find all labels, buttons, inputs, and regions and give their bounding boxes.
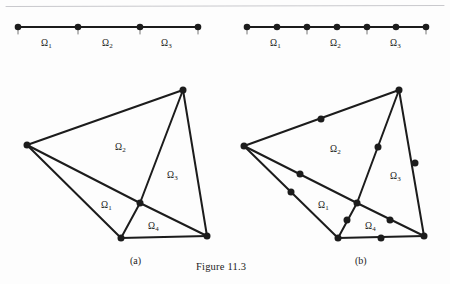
omega-subscript: 1: [325, 204, 329, 212]
1d-quadratic-node-3: [334, 24, 341, 31]
2d-quadratic-omega-label-3: Ω3: [390, 172, 401, 183]
1d-linear-node-1: [75, 24, 82, 31]
figure-caption: Figure 11.3: [196, 262, 246, 273]
horizontal-rule: [6, 6, 444, 7]
omega-subscript: 3: [168, 42, 172, 50]
omega-symbol: Ω: [330, 144, 337, 154]
omega-subscript: 3: [397, 42, 401, 50]
1d-quadratic-node-0: [244, 24, 251, 31]
2d-linear-edge-top-right: [183, 90, 207, 236]
omega-symbol: Ω: [41, 38, 48, 48]
2d-quadratic-omega-label-4: Ω4: [365, 222, 376, 233]
1d-mesh-quadratic-graphics: [244, 24, 430, 34]
2d-quadratic-omega-label-2: Ω2: [330, 145, 341, 156]
2d-quadratic-vertex-left: [241, 143, 248, 150]
2d-linear-vertex-center: [137, 200, 144, 207]
2d-linear-edge-left-bottom: [27, 145, 121, 238]
omega-symbol: Ω: [161, 38, 168, 48]
2d-linear-vertex-top: [180, 87, 187, 94]
2d-mesh-quadratic-graphics: [241, 87, 428, 242]
omega-subscript: 4: [155, 225, 159, 233]
omega-subscript: 3: [397, 175, 401, 183]
1d-linear-node-0: [15, 24, 22, 31]
1d-quadratic-node-5: [393, 24, 400, 31]
2d-linear-edge-left-center: [27, 145, 140, 203]
1d-quadratic-node-2: [304, 24, 311, 31]
omega-symbol: Ω: [115, 142, 122, 152]
1d-quadratic-omega-label-1: Ω1: [270, 39, 281, 50]
2d-linear-vertex-right: [204, 233, 211, 240]
omega-symbol: Ω: [318, 200, 325, 210]
omega-subscript: 2: [109, 42, 113, 50]
omega-symbol: Ω: [365, 221, 372, 231]
1d-linear-omega-label-1: Ω1: [41, 39, 52, 50]
2d-quadratic-midside-node-4: [412, 160, 419, 167]
1d-quadratic-omega-label-3: Ω3: [390, 39, 401, 50]
2d-quadratic-vertex-center: [354, 200, 361, 207]
omega-symbol: Ω: [102, 38, 109, 48]
omega-symbol: Ω: [167, 170, 174, 180]
2d-linear-edge-top-center: [140, 90, 183, 203]
omega-subscript: 3: [174, 174, 178, 182]
2d-linear-omega-label-3: Ω3: [167, 171, 178, 182]
2d-mesh-linear-graphics: [24, 87, 211, 242]
omega-subscript: 1: [48, 42, 52, 50]
2d-quadratic-vertex-right: [421, 233, 428, 240]
omega-symbol: Ω: [330, 38, 337, 48]
omega-subscript: 1: [108, 204, 112, 212]
1d-quadratic-node-4: [364, 24, 371, 31]
2d-quadratic-midside-node-3: [375, 144, 382, 151]
figure-11-3: Figure 11.3 Ω1Ω2Ω3Ω1Ω2Ω3Ω1Ω2Ω3Ω4Ω1Ω2Ω3Ω4…: [0, 0, 450, 284]
2d-linear-vertex-left: [24, 142, 31, 149]
omega-subscript: 1: [277, 42, 281, 50]
omega-symbol: Ω: [390, 171, 397, 181]
2d-quadratic-midside-node-0: [318, 116, 325, 123]
omega-symbol: Ω: [148, 221, 155, 231]
1d-quadratic-node-1: [274, 24, 281, 31]
2d-linear-omega-label-1: Ω1: [101, 201, 112, 212]
2d-quadratic-midside-node-5: [344, 217, 351, 224]
omega-subscript: 2: [122, 146, 126, 154]
2d-quadratic-midside-node-1: [297, 171, 304, 178]
2d-quadratic-omega-label-1: Ω1: [318, 201, 329, 212]
2d-quadratic-vertex-top: [396, 87, 403, 94]
top-horizontal-rule: [6, 6, 444, 7]
omega-subscript: 4: [372, 225, 376, 233]
omega-subscript: 2: [337, 42, 341, 50]
2d-quadratic-midside-node-7: [378, 235, 385, 242]
1d-linear-node-3: [195, 24, 202, 31]
1d-linear-node-2: [137, 24, 144, 31]
2d-linear-vertex-bottom: [118, 235, 125, 242]
2d-linear-edge-center-bottom: [121, 203, 140, 238]
2d-quadratic-midside-node-2: [288, 189, 295, 196]
2d-quadratic-vertex-bottom: [335, 235, 342, 242]
2d-linear-omega-label-4: Ω4: [148, 222, 159, 233]
omega-subscript: 2: [337, 148, 341, 156]
2d-linear-edge-bottom-right: [121, 236, 207, 238]
1d-quadratic-node-6: [423, 24, 430, 31]
figure-canvas: [0, 0, 450, 284]
panel-label-a: (a): [130, 256, 141, 266]
1d-linear-omega-label-3: Ω3: [161, 39, 172, 50]
panel-label-b: (b): [355, 256, 367, 266]
1d-mesh-linear-graphics: [15, 24, 202, 34]
2d-quadratic-midside-node-6: [387, 217, 394, 224]
2d-linear-omega-label-2: Ω2: [115, 143, 126, 154]
omega-symbol: Ω: [390, 38, 397, 48]
2d-linear-edge-left-top: [27, 90, 183, 145]
1d-linear-omega-label-2: Ω2: [102, 39, 113, 50]
omega-symbol: Ω: [270, 38, 277, 48]
omega-symbol: Ω: [101, 200, 108, 210]
1d-quadratic-omega-label-2: Ω2: [330, 39, 341, 50]
